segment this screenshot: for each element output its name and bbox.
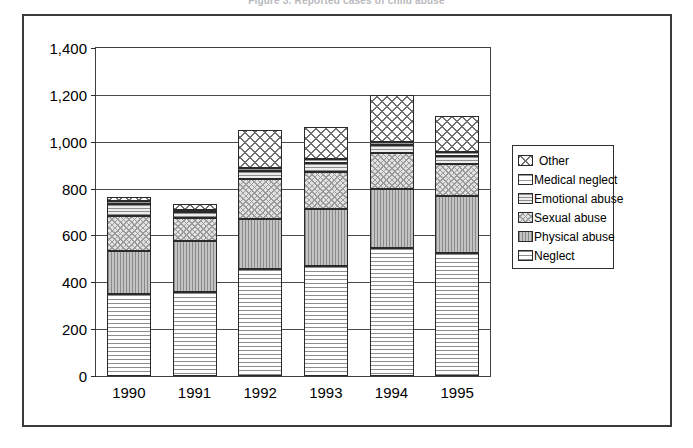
legend-label-emotional-abuse: Emotional abuse xyxy=(534,193,623,205)
y-axis-label-200: 200 xyxy=(62,322,87,337)
bar-segment-1991-medical[interactable] xyxy=(173,210,217,212)
bar-segment-1990-medical[interactable] xyxy=(107,201,151,203)
bar-segment-1993-medical[interactable] xyxy=(304,159,348,163)
bar-segment-1992-neglect[interactable] xyxy=(238,269,282,376)
legend-item-neglect[interactable]: Neglect xyxy=(518,246,609,265)
x-axis-label-1991: 1991 xyxy=(178,385,211,400)
legend-label-sexual-abuse: Sexual abuse xyxy=(534,212,607,224)
gridline-200 xyxy=(96,329,490,330)
bar-1993[interactable] xyxy=(304,127,348,377)
legend-label-medical-neglect: Medical neglect xyxy=(534,174,617,186)
y-tick-mark-1000 xyxy=(91,142,96,143)
x-axis-label-1994: 1994 xyxy=(375,385,408,400)
legend-swatch-emotional-abuse-icon xyxy=(518,193,533,204)
legend-item-other[interactable]: Other xyxy=(518,151,609,170)
bar-segment-1995-physical[interactable] xyxy=(435,196,479,253)
x-axis-label-1992: 1992 xyxy=(243,385,276,400)
bar-segment-1990-emotional[interactable] xyxy=(107,204,151,216)
bar-segment-1993-other[interactable] xyxy=(304,127,348,160)
bar-segment-1991-neglect[interactable] xyxy=(173,292,217,376)
legend-swatch-other-icon xyxy=(518,155,533,166)
y-axis-label-400: 400 xyxy=(62,275,87,290)
bar-segment-1995-other[interactable] xyxy=(435,116,479,152)
legend-swatch-medical-neglect-icon xyxy=(518,174,533,185)
bar-segment-1994-sexual[interactable] xyxy=(370,153,414,188)
y-axis-label-1200: 1,200 xyxy=(49,87,87,102)
bar-segment-1993-neglect[interactable] xyxy=(304,266,348,376)
bar-segment-1995-medical[interactable] xyxy=(435,152,479,156)
legend-item-sexual-abuse[interactable]: Sexual abuse xyxy=(518,208,609,227)
legend-label-physical-abuse: Physical abuse xyxy=(534,231,615,243)
gridline-800 xyxy=(96,189,490,190)
bar-segment-1993-emotional[interactable] xyxy=(304,163,348,172)
bar-1995[interactable] xyxy=(435,116,479,376)
gridline-1200 xyxy=(96,95,490,96)
legend-label-other: Other xyxy=(539,155,569,167)
bar-segment-1992-other[interactable] xyxy=(238,130,282,167)
bar-segment-1993-physical[interactable] xyxy=(304,209,348,266)
y-tick-mark-1400 xyxy=(91,48,96,49)
bar-segment-1991-sexual[interactable] xyxy=(173,218,217,241)
bar-1990[interactable] xyxy=(107,197,151,376)
bar-1991[interactable] xyxy=(173,204,217,376)
y-axis-label-1000: 1,000 xyxy=(49,134,87,149)
bar-segment-1992-medical[interactable] xyxy=(238,168,282,172)
y-axis-label-0: 0 xyxy=(79,369,87,384)
y-tick-mark-400 xyxy=(91,282,96,283)
bar-segment-1994-neglect[interactable] xyxy=(370,248,414,376)
chart-legend: Other Medical neglect Emotional abuse Se… xyxy=(512,145,614,269)
bar-segment-1991-physical[interactable] xyxy=(173,241,217,291)
y-axis-label-1400: 1,400 xyxy=(49,41,87,56)
bar-segment-1993-sexual[interactable] xyxy=(304,172,348,208)
gridline-1000 xyxy=(96,142,490,143)
bar-segment-1994-other[interactable] xyxy=(370,95,414,142)
legend-swatch-physical-abuse-icon xyxy=(518,231,533,242)
y-tick-mark-200 xyxy=(91,329,96,330)
x-axis-label-1990: 1990 xyxy=(112,385,145,400)
bar-segment-1991-other[interactable] xyxy=(173,204,217,210)
y-axis-label-600: 600 xyxy=(62,228,87,243)
bar-segment-1995-emotional[interactable] xyxy=(435,156,479,164)
bar-segment-1990-neglect[interactable] xyxy=(107,294,151,376)
bar-1992[interactable] xyxy=(238,130,282,376)
bar-segment-1992-physical[interactable] xyxy=(238,219,282,269)
gridline-600 xyxy=(96,235,490,236)
y-tick-mark-800 xyxy=(91,189,96,190)
bar-segment-1995-sexual[interactable] xyxy=(435,164,479,196)
bar-segment-1990-other[interactable] xyxy=(107,197,151,202)
bar-segment-1992-emotional[interactable] xyxy=(238,171,282,179)
bar-segment-1994-emotional[interactable] xyxy=(370,145,414,153)
bar-segment-1991-emotional[interactable] xyxy=(173,212,217,218)
bar-segment-1995-neglect[interactable] xyxy=(435,253,479,376)
legend-label-neglect: Neglect xyxy=(534,250,575,262)
x-axis-label-1995: 1995 xyxy=(440,385,473,400)
bar-segment-1992-sexual[interactable] xyxy=(238,179,282,219)
legend-item-physical-abuse[interactable]: Physical abuse xyxy=(518,227,609,246)
legend-swatch-neglect-icon xyxy=(518,250,533,261)
bar-segment-1994-physical[interactable] xyxy=(370,189,414,249)
gridline-400 xyxy=(96,282,490,283)
bar-segment-1990-sexual[interactable] xyxy=(107,216,151,251)
y-axis-label-800: 800 xyxy=(62,181,87,196)
y-tick-mark-0 xyxy=(91,376,96,377)
y-tick-mark-600 xyxy=(91,235,96,236)
y-tick-mark-1200 xyxy=(91,95,96,96)
legend-item-emotional-abuse[interactable]: Emotional abuse xyxy=(518,189,609,208)
figure-title: Figure 3. Reported cases of child abuse xyxy=(0,0,693,6)
legend-item-medical-neglect[interactable]: Medical neglect xyxy=(518,170,609,189)
x-axis-label-1993: 1993 xyxy=(309,385,342,400)
plot-area: 02004006008001,0001,2001,400 19901991199… xyxy=(95,47,491,377)
legend-swatch-sexual-abuse-icon xyxy=(518,212,533,223)
bar-1994[interactable] xyxy=(370,95,414,376)
bar-segment-1994-medical[interactable] xyxy=(370,142,414,146)
bar-segment-1990-physical[interactable] xyxy=(107,251,151,294)
chart-outer-frame: 02004006008001,0001,2001,400 19901991199… xyxy=(22,14,672,427)
